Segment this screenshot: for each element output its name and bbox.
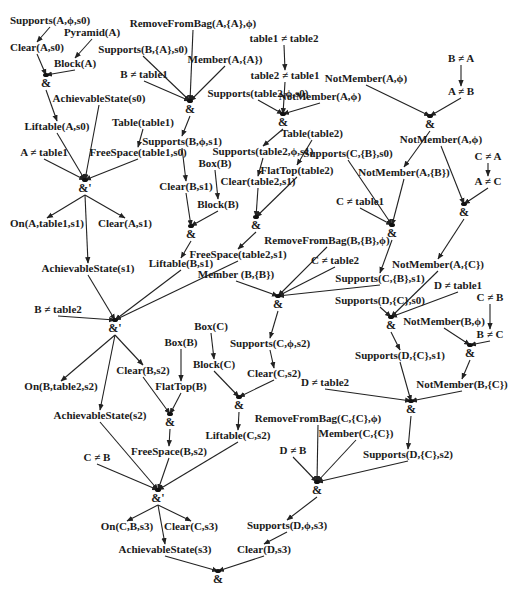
edge-arrow	[85, 195, 125, 218]
predicate-node: Member (B,{B})	[198, 268, 275, 281]
edge-arrow	[411, 391, 462, 401]
edge-arrow	[182, 116, 190, 136]
predicate-node: RemoveFromBag(B,{B},ϕ)	[264, 234, 390, 247]
predicate-node: Liftable(C,s2)	[205, 429, 270, 442]
predicate-node: C ≠ B	[84, 451, 111, 463]
edge-arrow	[127, 505, 158, 521]
predicate-node: Supports(D,{C},s1)	[355, 349, 445, 362]
predicate-node: Supports(C,ϕ,s2)	[230, 337, 311, 350]
edge-arrow	[360, 208, 392, 225]
predicate-node: Table(table2)	[281, 127, 343, 140]
predicate-node: A ≠ B	[448, 85, 475, 97]
edge-arrow	[270, 311, 278, 338]
predicate-node: Block(A)	[54, 57, 97, 70]
predicate-node: Supports(D,{C},s2)	[363, 448, 453, 461]
edge-arrow	[444, 328, 470, 345]
predicate-node: Member(C,{C})	[319, 427, 394, 440]
predicate-node: D ≠ B	[280, 444, 307, 456]
predicate-node: NotMember(B,{C})	[416, 378, 508, 391]
edge-arrow	[186, 193, 191, 226]
predicate-node: Block(B)	[197, 198, 239, 211]
and-node: &	[41, 76, 51, 90]
predicate-node: Clear(B,s1)	[159, 180, 213, 193]
and-node: &	[251, 218, 261, 232]
edge-arrow	[284, 45, 285, 70]
edge-arrow	[317, 440, 356, 482]
predicate-node: C ≠ B	[477, 291, 504, 303]
edge-arrow	[392, 179, 404, 225]
edge-arrow	[236, 281, 278, 296]
predicate-node: Pyramid(A)	[64, 26, 121, 39]
predicate-node: Clear(C,s2)	[247, 367, 301, 380]
and-node: &	[213, 572, 223, 586]
and-node: &	[186, 227, 196, 241]
and-node: &	[386, 318, 396, 332]
edge-arrow	[215, 170, 218, 199]
and-node: &'	[78, 181, 91, 195]
predicate-node: C ≠ table2	[311, 254, 360, 266]
predicate-node: Table(table1)	[112, 116, 174, 129]
predicate-node: AchievableState(s1)	[42, 262, 135, 275]
edge-arrow	[191, 211, 218, 226]
predicate-node: On(A,table1,s1)	[10, 217, 84, 230]
predicate-node: Liftable(A,s0)	[24, 120, 89, 133]
and-node: &	[459, 205, 469, 219]
predicate-node: table1 ≠ table2	[250, 32, 319, 44]
edge-arrow	[408, 416, 411, 449]
predicate-node: Box(B)	[165, 336, 198, 349]
predicate-node: B ≠ A	[448, 52, 474, 64]
edge-arrow	[239, 380, 274, 397]
edge-arrow	[218, 556, 264, 571]
predicate-node: Supports(D,{C},s0)	[335, 294, 425, 307]
predicate-node: RemoveFromBag(A,{A},ϕ)	[130, 17, 257, 30]
and-node: &	[465, 346, 475, 360]
edge-arrow	[85, 159, 138, 180]
edge-arrow	[430, 98, 461, 116]
predicate-node: FlatTop(B)	[155, 380, 207, 393]
and-node: &'	[151, 491, 164, 505]
edge-arrow	[470, 341, 490, 345]
predicate-node: Supports(C,{B},s1)	[335, 272, 425, 285]
edge-arrow	[283, 103, 320, 114]
and-node: &	[273, 297, 283, 311]
edge-arrow	[46, 70, 75, 75]
predicate-node: NotMember(A,ϕ)	[279, 90, 362, 103]
predicate-node: C ≠ table1	[336, 195, 384, 207]
predicate-node: Clear(D,s3)	[237, 543, 291, 556]
edge-arrow	[317, 461, 408, 482]
derivation-diagram: &&&'&&&&&&&&&&'&&&&'&& Supports(A,ϕ,s0)P…	[0, 0, 522, 601]
predicate-node: D ≠ table1	[434, 279, 482, 291]
edge-arrow	[144, 81, 190, 101]
edge-arrow	[400, 362, 411, 401]
predicate-node: D ≠ table2	[301, 376, 350, 388]
edge-arrow	[190, 30, 193, 101]
predicate-node: Supports(C,{B},s0)	[303, 147, 393, 160]
diagram-svg: &&&'&&&&&&&&&&'&&&&'&& Supports(A,ϕ,s0)P…	[0, 0, 522, 601]
and-node: &	[425, 117, 435, 131]
predicate-node: Supports(B,{A},s0)	[98, 43, 188, 56]
predicate-node: NotMember(A,ϕ)	[325, 72, 408, 85]
edge-arrow	[438, 219, 464, 259]
edge-arrow	[293, 457, 317, 482]
predicate-node: NotMember(A,{B})	[358, 166, 450, 179]
edge-arrow	[258, 100, 283, 114]
predicate-node: NotMember(A,ϕ)	[400, 133, 483, 146]
and-node: &	[234, 398, 244, 412]
predicate-node: RemoveFromBag(C,{C},ϕ)	[255, 412, 382, 425]
edge-arrow	[391, 332, 400, 350]
edge-arrow	[238, 412, 239, 430]
edge-arrow	[214, 371, 239, 397]
edge-arrow	[158, 458, 169, 490]
predicate-node: AchievableState(s3)	[119, 543, 212, 556]
edge-arrow	[170, 393, 181, 414]
predicate-node: NotMember(B,ϕ)	[403, 315, 485, 328]
predicate-node: Clear(table2,s1)	[221, 175, 296, 188]
predicate-node: C ≠ A	[475, 150, 502, 162]
edge-arrow	[37, 54, 46, 75]
edge-arrow	[211, 333, 214, 359]
predicate-node: FlatTop(table2)	[261, 164, 334, 177]
and-node: &	[165, 415, 175, 429]
edge-arrow	[85, 105, 99, 180]
edge-arrow	[169, 429, 170, 446]
edge-arrow	[115, 335, 143, 365]
